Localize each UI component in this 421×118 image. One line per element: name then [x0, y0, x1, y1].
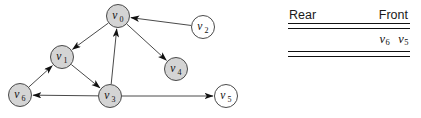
- node-circle-v2: [192, 16, 215, 39]
- node-label-v4: v: [170, 62, 176, 74]
- node-circle-v6: [9, 84, 32, 107]
- queue-contents-row: v6v5: [288, 29, 410, 52]
- node-label-v5: v: [220, 89, 226, 101]
- graph-node-v6[interactable]: v6: [9, 84, 32, 107]
- graph-edge-v3-to-v6: [33, 95, 98, 96]
- graph-node-v1[interactable]: v1: [51, 46, 74, 69]
- node-label-v2: v: [197, 20, 203, 32]
- node-label-sub-v1: 1: [64, 56, 68, 65]
- queue-table: Rear Front v6v5: [288, 8, 410, 57]
- queue-item[interactable]: v5: [398, 32, 408, 47]
- graph-node-v2[interactable]: v2: [192, 16, 215, 39]
- node-label-sub-v2: 2: [205, 26, 209, 35]
- node-label-v3: v: [104, 89, 110, 101]
- graph-edge-v0-to-v1: [72, 23, 108, 49]
- graph-svg: v0v1v2v3v4v5v6: [0, 0, 250, 118]
- queue-item-label: v: [398, 32, 404, 46]
- node-label-v1: v: [56, 50, 62, 62]
- graph-panel: v0v1v2v3v4v5v6: [0, 0, 250, 118]
- queue-header-row: Rear Front: [288, 8, 410, 24]
- graph-node-v0[interactable]: v0: [107, 5, 130, 28]
- graph-edge-v6-to-v1: [29, 66, 52, 87]
- node-circle-v3: [99, 85, 122, 108]
- queue-item-subscript: 5: [404, 37, 408, 47]
- graph-node-v4[interactable]: v4: [165, 58, 188, 81]
- node-circle-v5: [215, 85, 238, 108]
- graph-edge-v0-to-v4: [127, 24, 167, 60]
- node-label-sub-v5: 5: [228, 95, 232, 104]
- node-label-sub-v6: 6: [22, 94, 26, 103]
- queue-rule-bottom: [288, 52, 410, 57]
- queue-item-subscript: 6: [385, 37, 389, 47]
- node-label-v6: v: [14, 88, 20, 100]
- graph-node-v5[interactable]: v5: [215, 85, 238, 108]
- node-label-v0: v: [112, 9, 118, 21]
- node-circle-v0: [107, 5, 130, 28]
- node-label-sub-v0: 0: [120, 15, 124, 24]
- graph-edge-v2-to-v0: [131, 18, 191, 26]
- figure-container: v0v1v2v3v4v5v6 Rear Front v6v5: [0, 0, 421, 118]
- queue-rear-label: Rear: [288, 8, 346, 24]
- queue-panel: Rear Front v6v5: [288, 8, 410, 68]
- node-label-sub-v4: 4: [178, 68, 182, 77]
- node-label-sub-v3: 3: [112, 95, 116, 104]
- node-layer: v0v1v2v3v4v5v6: [9, 5, 238, 108]
- queue-item[interactable]: v6: [379, 32, 389, 47]
- graph-edge-v3-to-v0: [111, 29, 117, 84]
- node-circle-v4: [165, 58, 188, 81]
- queue-items: v6v5: [288, 29, 410, 52]
- node-circle-v1: [51, 46, 74, 69]
- queue-front-label: Front: [346, 8, 410, 24]
- graph-node-v3[interactable]: v3: [99, 85, 122, 108]
- graph-edge-v1-to-v3: [71, 65, 100, 88]
- queue-footer-rule: [288, 52, 410, 57]
